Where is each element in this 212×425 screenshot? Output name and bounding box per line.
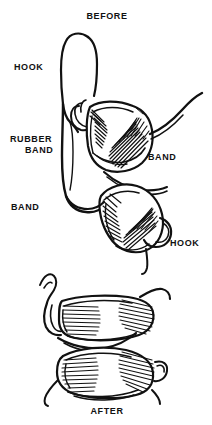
lower-tooth-shading-right — [123, 208, 158, 250]
label-band-lower-left: BAND — [11, 202, 39, 213]
label-hook-upper: HOOK — [14, 62, 43, 73]
upper-tooth-shading-top — [136, 108, 148, 118]
after-illustration — [40, 274, 170, 406]
after-lower-shading-left — [62, 358, 98, 392]
after-lower-shading-right — [119, 352, 154, 392]
title-after: AFTER — [62, 406, 152, 417]
after-upper-shading-right — [119, 300, 154, 334]
lower-tooth-shading-left — [103, 194, 122, 242]
illustration-page: BEFORE HOOK RUBBER BAND BAND BAND HOOK A… — [0, 0, 212, 425]
title-before: BEFORE — [62, 11, 152, 22]
upper-tooth-shading-right — [109, 118, 149, 168]
upper-tooth-shading-left — [90, 110, 107, 148]
label-rubber-band-line1: RUBBER — [10, 134, 52, 145]
label-rubber-band-line2: BAND — [25, 145, 53, 156]
after-upper-shading-left — [63, 306, 100, 335]
label-band-right: BAND — [148, 152, 176, 163]
label-hook-lower-right: HOOK — [170, 238, 199, 249]
